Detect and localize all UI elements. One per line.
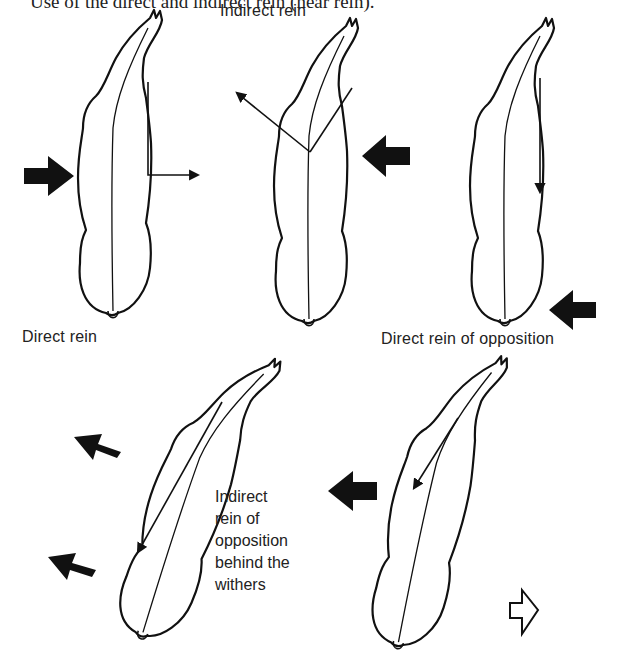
- solid-arrow-icon: [549, 290, 596, 330]
- solid-arrow-icon: [24, 156, 74, 196]
- solid-arrow-icon: [74, 434, 121, 460]
- solid-arrow-icon: [362, 135, 410, 177]
- rein-arrow-icon: [148, 82, 198, 175]
- label-indirect-rein-of-opposition: Indirect rein of opposition behind the w…: [215, 486, 290, 596]
- horse-figure-direct-rein: [78, 10, 162, 318]
- horse-figure-indirect-rein: [274, 18, 358, 326]
- label-direct-rein: Direct rein: [22, 328, 97, 346]
- horse-figure-indirect-rein-in-front: [363, 340, 509, 658]
- solid-arrow-icon: [328, 471, 377, 511]
- solid-arrow-icon: [48, 553, 96, 580]
- open-arrow-icon: [510, 590, 538, 634]
- label-indirect-rein: Indirect rein: [220, 2, 306, 20]
- label-direct-rein-of-opposition: Direct rein of opposition: [381, 330, 554, 348]
- horse-figure-direct-rein-of-opposition: [470, 18, 554, 326]
